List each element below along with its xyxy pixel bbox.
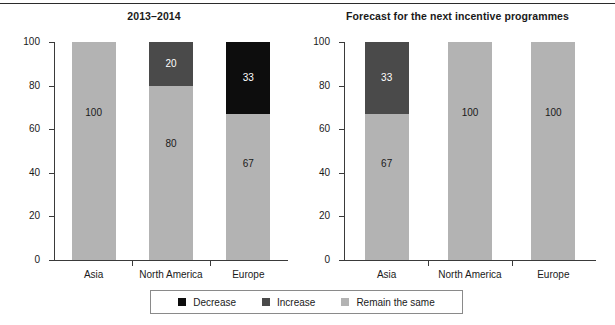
chart-panel-left: 2013–2014 100806040200100Asia2080North A… [0,0,308,285]
legend-swatch-icon [178,298,186,306]
legend-swatch-icon [262,298,270,306]
y-axis-tick-label-right-0: 0 [300,253,330,266]
bar-right-north-america[interactable]: 100North America [448,42,492,260]
bar-segment-value: 33 [381,72,392,83]
y-axis-tick-left-20: 20 [49,216,55,217]
y-axis-tick-left-0: 0 [49,260,55,261]
legend-label: Decrease [193,297,236,308]
bar-segment-value: 67 [243,158,254,169]
bar-segment-value: 67 [381,158,392,169]
bar-segment-left-north-america-remain-the-same[interactable]: 80 [149,86,193,260]
bar-right-europe[interactable]: 100Europe [531,42,575,260]
y-axis-tick-right-60: 60 [339,129,345,130]
bar-segment-value: 100 [462,107,479,118]
y-axis-tick-left-100: 100 [49,42,55,43]
plot-area-left: 100806040200100Asia2080North America3367… [55,42,287,260]
x-axis-tick-left-1 [132,260,133,266]
y-axis-line-left [54,42,55,261]
legend-item-remain-the-same[interactable]: Remain the same [341,297,434,308]
x-axis-category-label-right-europe: Europe [488,269,615,280]
x-axis-tick-right-1 [428,260,429,266]
bar-segment-value: 20 [165,58,176,69]
x-axis-category-label-left-europe: Europe [183,269,313,280]
bar-segment-right-asia-remain-the-same[interactable]: 67 [365,114,409,260]
y-axis-tick-label-right-20: 20 [300,209,330,222]
bar-segment-left-asia-remain-the-same[interactable]: 100 [72,42,116,260]
chart-panel-right: Forecast for the next incentive programm… [300,0,615,285]
plot-area-right: 1008060402003367Asia100North America100E… [345,42,595,260]
y-axis-line-right [344,42,345,261]
y-axis-tick-label-left-80: 80 [10,79,40,92]
bar-segment-value: 80 [165,138,176,149]
legend-label: Remain the same [356,297,434,308]
y-axis-tick-left-80: 80 [49,86,55,87]
bar-segment-value: 100 [545,107,562,118]
y-axis-tick-left-40: 40 [49,173,55,174]
y-axis-tick-label-right-60: 60 [300,122,330,135]
x-axis-tick-right-2 [512,260,513,266]
chart-legend: DecreaseIncreaseRemain the same [150,290,463,314]
x-axis-line-right [344,260,596,261]
chart-title-left: 2013–2014 [0,10,308,22]
legend-item-decrease[interactable]: Decrease [178,297,236,308]
y-axis-tick-label-left-0: 0 [10,253,40,266]
y-axis-tick-left-60: 60 [49,129,55,130]
bar-segment-right-north-america-remain-the-same[interactable]: 100 [448,42,492,260]
y-axis-tick-label-right-80: 80 [300,79,330,92]
bar-segment-right-asia-increase[interactable]: 33 [365,42,409,114]
y-axis-tick-right-20: 20 [339,216,345,217]
y-axis-tick-right-40: 40 [339,173,345,174]
legend-item-increase[interactable]: Increase [262,297,315,308]
y-axis-tick-label-left-60: 60 [10,122,40,135]
bar-segment-value: 100 [85,107,102,118]
y-axis-tick-right-100: 100 [339,42,345,43]
y-axis-tick-label-left-40: 40 [10,166,40,179]
bar-left-north-america[interactable]: 2080North America [149,42,193,260]
x-axis-tick-left-2 [210,260,211,266]
bar-right-asia[interactable]: 3367Asia [365,42,409,260]
y-axis-tick-right-80: 80 [339,86,345,87]
y-axis-tick-label-left-100: 100 [10,35,40,48]
bar-segment-right-europe-remain-the-same[interactable]: 100 [531,42,575,260]
legend-label: Increase [277,297,315,308]
y-axis-tick-label-right-40: 40 [300,166,330,179]
chart-title-right: Forecast for the next incentive programm… [300,10,615,22]
bar-segment-value: 33 [243,72,254,83]
y-axis-tick-label-left-20: 20 [10,209,40,222]
bar-left-asia[interactable]: 100Asia [72,42,116,260]
bar-segment-left-north-america-increase[interactable]: 20 [149,42,193,86]
y-axis-tick-label-right-100: 100 [300,35,330,48]
bar-left-europe[interactable]: 3367Europe [226,42,270,260]
x-axis-line-left [54,260,288,261]
legend-swatch-icon [341,298,349,306]
bar-segment-left-europe-remain-the-same[interactable]: 67 [226,114,270,260]
bar-segment-left-europe-decrease[interactable]: 33 [226,42,270,114]
y-axis-tick-right-0: 0 [339,260,345,261]
